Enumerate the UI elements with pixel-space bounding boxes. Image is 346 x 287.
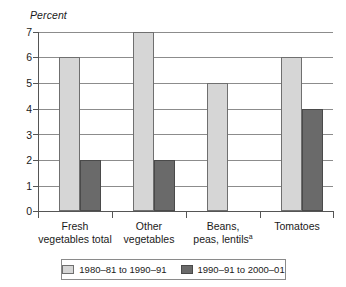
x-category-label-line2-text: peas, lentils	[193, 233, 248, 245]
y-axis-title: Percent	[30, 9, 67, 21]
y-tick-label-5: 5	[10, 78, 32, 88]
legend-items: 1980–81 to 1990–91 1990–91 to 2000–01	[62, 260, 285, 279]
bar-beans-peas-lentils-series1	[207, 83, 228, 211]
legend-swatch-series1-icon	[62, 265, 74, 274]
x-tick-mark-0	[38, 212, 39, 218]
legend-label-series2: 1990–91 to 2000–01	[198, 265, 285, 275]
y-axis-line	[38, 32, 39, 212]
legend-label-series1: 1980–81 to 1990–91	[79, 265, 166, 275]
gridline-7	[38, 32, 333, 33]
x-category-label-line2: peas, lentilsa	[178, 233, 268, 246]
x-tick-mark-3	[260, 212, 261, 218]
percent-bar-chart: Percent 7 6 5 4 3 2 1 0	[0, 0, 346, 287]
x-tick-mark-4	[333, 212, 334, 218]
legend-item-series1[interactable]: 1980–81 to 1990–91	[62, 265, 166, 275]
legend-swatch-series2-icon	[181, 265, 193, 274]
bar-fresh-vegetables-total-series2	[80, 160, 101, 211]
y-tick-label-3: 3	[10, 130, 32, 140]
bar-other-vegetables-series1	[133, 32, 154, 211]
bar-tomatoes-series1	[281, 57, 302, 211]
x-category-label-line1: Other	[136, 220, 162, 232]
y-tick-label-6: 6	[10, 52, 32, 62]
legend: 1980–81 to 1990–91 1990–91 to 2000–01	[61, 259, 286, 280]
bar-other-vegetables-series2	[154, 160, 175, 211]
legend-item-series2[interactable]: 1990–91 to 2000–01	[181, 265, 285, 275]
x-tick-mark-2	[186, 212, 187, 218]
y-tick-label-7: 7	[10, 27, 32, 37]
bar-tomatoes-series2	[302, 109, 323, 211]
y-tick-label-2: 2	[10, 155, 32, 165]
y-tick-label-1: 1	[10, 181, 32, 191]
x-category-label-line1: Tomatoes	[274, 220, 320, 232]
footnote-marker-a: a	[249, 232, 253, 239]
x-category-label-line1: Fresh	[62, 220, 89, 232]
plot-area	[38, 32, 333, 211]
y-tick-label-4: 4	[10, 104, 32, 114]
y-tick-label-0: 0	[10, 206, 32, 216]
x-category-label-tomatoes: Tomatoes	[252, 220, 342, 233]
x-tick-mark-1	[112, 212, 113, 218]
x-category-label-line1: Beans,	[207, 220, 240, 232]
bar-fresh-vegetables-total-series1	[59, 57, 80, 211]
